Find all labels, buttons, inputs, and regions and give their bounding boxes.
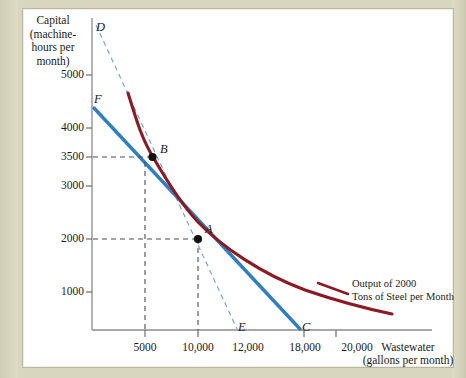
x-axis-title: Wastewater (gallons per month) (355, 341, 461, 367)
isocost-line-FC (94, 108, 300, 329)
y-axis-title-line2: (machine- (16, 28, 90, 42)
point-label-e: E (238, 320, 246, 335)
data-point-b (148, 153, 156, 161)
y-tick-label-1000: 1000 (51, 285, 84, 297)
x-tick-label-18000: 18,000 (281, 341, 329, 353)
x-tick-label-5000: 5000 (125, 341, 165, 353)
isoquant-callout-line1: Output of 2000 (352, 278, 462, 291)
y-tick-label-3500: 3500 (51, 150, 84, 162)
data-point-a (194, 235, 202, 243)
x-axis-title-line2: (gallons per month) (355, 354, 461, 367)
y-tick-marks (86, 75, 92, 292)
y-axis-title-line4: month) (16, 55, 90, 69)
y-tick-label-3000: 3000 (51, 179, 84, 191)
y-axis-title: Capital (machine- hours per month) (16, 14, 90, 68)
point-label-a: A (205, 222, 213, 237)
isoquant-callout-line2: Tons of Steel per Month (352, 291, 462, 304)
x-tick-label-10000: 10,000 (174, 341, 222, 353)
y-axis-title-line3: hours per (16, 41, 90, 55)
y-axis-title-line1: Capital (16, 14, 90, 28)
x-tick-label-12000: 12,000 (224, 341, 272, 353)
isoquant-callout-leader (318, 283, 348, 294)
point-label-f: F (94, 92, 102, 107)
x-axis-title-line1: Wastewater (355, 341, 461, 354)
point-label-b: B (160, 142, 168, 157)
y-tick-label-5000: 5000 (51, 68, 84, 80)
page-background: Capital (machine- hours per month) 5000 … (0, 0, 466, 378)
point-label-d: D (96, 20, 105, 35)
isoquant-callout-text: Output of 2000 Tons of Steel per Month (352, 278, 462, 303)
point-label-c: C (302, 320, 310, 335)
y-tick-label-4000: 4000 (51, 121, 84, 133)
y-tick-label-2000: 2000 (51, 232, 84, 244)
